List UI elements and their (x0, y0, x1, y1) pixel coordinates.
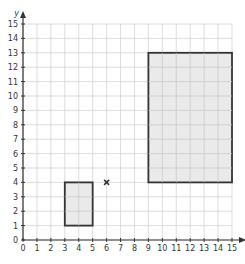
x-tick-label: 15 (227, 244, 237, 253)
x-tick-label: 6 (104, 244, 109, 253)
y-axis-arrow-icon (20, 11, 26, 18)
x-tick-label: 3 (62, 244, 67, 253)
y-tick-label: 14 (8, 34, 18, 43)
x-tick-label: 7 (118, 244, 123, 253)
coordinate-grid-chart: 0123456789101112131415012345678910111213… (0, 0, 245, 264)
x-tick-label: 0 (20, 244, 25, 253)
y-tick-label: 15 (8, 20, 18, 29)
x-tick-label: 10 (157, 244, 167, 253)
y-tick-label: 8 (13, 121, 18, 130)
x-tick-label: 9 (146, 244, 151, 253)
x-tick-label: 13 (199, 244, 209, 253)
y-tick-label: 6 (13, 150, 18, 159)
y-tick-label: 7 (13, 135, 18, 144)
y-axis-label: y (13, 9, 19, 18)
y-tick-label: 3 (13, 193, 18, 202)
y-tick-label: 4 (13, 178, 18, 187)
x-tick-label: 12 (185, 244, 195, 253)
x-axis-arrow-icon (239, 237, 245, 243)
y-tick-label: 9 (13, 106, 18, 115)
x-tick-label: 2 (48, 244, 53, 253)
x-tick-label: 1 (34, 244, 39, 253)
y-tick-label: 13 (8, 49, 18, 58)
x-tick-label: 14 (213, 244, 223, 253)
y-tick-label: 10 (8, 92, 18, 101)
x-tick-label: 11 (171, 244, 181, 253)
y-tick-label: 1 (13, 222, 18, 231)
y-tick-label: 0 (13, 236, 18, 245)
x-tick-label: 5 (90, 244, 95, 253)
x-tick-label: 8 (132, 244, 137, 253)
x-tick-label: 4 (76, 244, 81, 253)
y-tick-label: 11 (8, 78, 18, 87)
y-tick-label: 12 (8, 63, 18, 72)
y-tick-label: 2 (13, 207, 18, 216)
y-tick-label: 5 (13, 164, 18, 173)
